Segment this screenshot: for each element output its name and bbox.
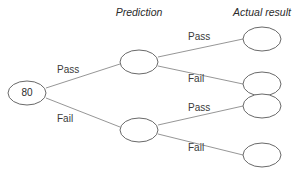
node-actual-fail-fail-ellipse: [243, 143, 281, 167]
edge-label-root-fail: Fail: [57, 113, 73, 124]
node-actual-pass-fail-ellipse: [243, 72, 281, 96]
edge-label-root-pass: Pass: [57, 64, 79, 75]
node-actual-pass-fail[interactable]: [243, 72, 281, 96]
node-prediction-pass[interactable]: [120, 50, 158, 74]
node-root[interactable]: 80: [8, 81, 46, 105]
tree-canvas: Prediction Actual result Pass Fail Pass …: [0, 0, 297, 176]
node-actual-fail-pass-ellipse: [243, 94, 281, 118]
probability-tree-diagram: Prediction Actual result Pass Fail Pass …: [0, 0, 297, 176]
node-actual-pass-pass[interactable]: [243, 27, 281, 51]
edge-label-prediction-fail-actual-pass: Pass: [188, 102, 210, 113]
edge-label-prediction-pass-actual-pass: Pass: [188, 31, 210, 42]
column-header-actual-result: Actual result: [232, 6, 292, 18]
edge-label-prediction-fail-actual-fail: Fail: [188, 142, 204, 153]
node-actual-fail-pass[interactable]: [243, 94, 281, 118]
node-actual-fail-fail[interactable]: [243, 143, 281, 167]
edge-label-prediction-pass-actual-fail: Fail: [188, 73, 204, 84]
node-root-label: 80: [21, 87, 33, 98]
column-header-prediction: Prediction: [116, 6, 163, 18]
node-prediction-fail[interactable]: [120, 118, 158, 142]
node-actual-pass-pass-ellipse: [243, 27, 281, 51]
node-prediction-fail-ellipse: [120, 118, 158, 142]
node-prediction-pass-ellipse: [120, 50, 158, 74]
